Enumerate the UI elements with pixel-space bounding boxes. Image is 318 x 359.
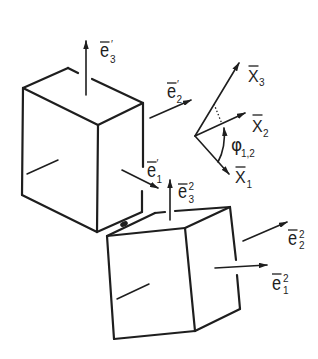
label-sub: 3: [110, 54, 116, 65]
label-base: e: [288, 226, 297, 249]
body2-edge-top-back-a: [155, 212, 165, 213]
label-sub: 2: [177, 94, 183, 105]
label-sub: 2: [299, 240, 305, 251]
label-base: X: [252, 118, 263, 135]
label-base: e: [178, 179, 187, 202]
label-sub: 1: [283, 285, 289, 296]
label-sub: 1,2: [241, 148, 255, 159]
body1-edge-front: [97, 125, 98, 232]
label-sup: 2: [299, 229, 305, 240]
label-base: e: [167, 79, 176, 102]
label-base: X: [248, 68, 259, 85]
label-base: e: [100, 38, 109, 61]
label-sup: 2: [283, 273, 289, 284]
label-base: X: [235, 169, 246, 186]
label-sup: ′: [111, 39, 113, 50]
label-e2-1: e 2 1: [272, 271, 289, 296]
two-body-diagram: e ′ 3 e ′ 2 e ′ 1 e 2 3 e 2 2 e 2 1 X 3: [0, 0, 318, 359]
label-sup: 2: [189, 181, 195, 192]
label-e2-2: e 2 2: [288, 226, 305, 251]
label-sup: ′: [177, 79, 179, 90]
label-sup: ′: [157, 158, 159, 169]
label-base: e: [147, 158, 156, 181]
body1-edge-left: [22, 88, 23, 195]
label-sub: 3: [259, 77, 265, 88]
label-sub: 1: [247, 179, 253, 190]
label-sub: 2: [263, 128, 269, 139]
label-sub: 1: [157, 174, 163, 185]
label-sub: 3: [189, 194, 195, 205]
label-base: e: [272, 271, 281, 294]
